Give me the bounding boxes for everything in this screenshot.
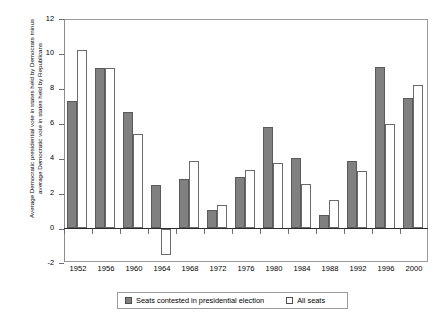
x-tick-mark xyxy=(288,229,289,234)
bar-1984-all-seats xyxy=(301,184,311,229)
y-tick-mark xyxy=(59,89,64,90)
x-tick-mark xyxy=(64,229,65,234)
y-tick-label: 12 xyxy=(28,15,54,23)
x-tick-mark xyxy=(92,229,93,234)
y-tick-label: 8 xyxy=(28,84,54,92)
bar-1980-all-seats xyxy=(273,163,283,228)
bar-1956-all-seats xyxy=(105,68,115,229)
x-tick-mark xyxy=(176,229,177,234)
legend-label-contested: Seats contested in presidential election xyxy=(136,296,264,305)
bar-1976-contested xyxy=(235,177,245,229)
y-tick-label: 4 xyxy=(28,154,54,162)
bar-2000-all-seats xyxy=(413,85,423,228)
x-tick-mark xyxy=(204,229,205,234)
legend-item-contested: Seats contested in presidential election xyxy=(125,296,264,305)
bar-1972-contested xyxy=(207,210,217,228)
bar-1952-all-seats xyxy=(77,50,87,228)
y-tick-mark xyxy=(59,124,64,125)
x-tick-mark xyxy=(120,229,121,234)
bar-1960-contested xyxy=(123,112,133,229)
y-tick-label: 6 xyxy=(28,119,54,127)
bar-1996-contested xyxy=(375,67,385,228)
y-tick-mark xyxy=(59,19,64,20)
y-tick-mark xyxy=(59,54,64,55)
bar-1996-all-seats xyxy=(385,124,395,229)
bar-1972-all-seats xyxy=(217,205,227,229)
x-tick-mark xyxy=(316,229,317,234)
x-tick-label: 2000 xyxy=(394,264,434,273)
bar-1992-contested xyxy=(347,161,357,228)
zero-baseline xyxy=(64,228,428,229)
legend-item-all-seats: All seats xyxy=(286,296,325,305)
y-tick-label: 10 xyxy=(28,49,54,57)
x-tick-mark xyxy=(260,229,261,234)
y-tick-label: 0 xyxy=(28,224,54,232)
bar-1956-contested xyxy=(95,68,105,229)
y-tick-mark xyxy=(59,159,64,160)
bar-1968-all-seats xyxy=(189,161,199,228)
x-tick-mark xyxy=(148,229,149,234)
bar-1968-contested xyxy=(179,179,189,229)
bar-1964-contested xyxy=(151,185,161,229)
legend-swatch-contested-icon xyxy=(125,297,132,304)
legend-swatch-all-seats-icon xyxy=(286,297,293,304)
x-tick-mark xyxy=(400,229,401,234)
x-tick-mark xyxy=(344,229,345,234)
x-tick-mark xyxy=(372,229,373,234)
bar-1976-all-seats xyxy=(245,170,255,228)
bar-1964-all-seats xyxy=(161,229,171,255)
bar-1960-all-seats xyxy=(133,134,143,228)
bar-2000-contested xyxy=(403,98,413,229)
chart-legend: Seats contested in presidential election… xyxy=(117,292,348,309)
y-axis-line xyxy=(64,19,65,262)
y-tick-label: -2 xyxy=(28,259,54,267)
bar-1980-contested xyxy=(263,127,273,228)
bar-1988-contested xyxy=(319,215,329,228)
y-tick-label: 2 xyxy=(28,189,54,197)
y-tick-mark xyxy=(59,194,64,195)
bar-1988-all-seats xyxy=(329,200,339,229)
bar-1952-contested xyxy=(67,101,77,228)
bar-chart: Average Democratic presidential vote in … xyxy=(0,0,446,323)
x-tick-mark xyxy=(232,229,233,234)
legend-label-all-seats: All seats xyxy=(297,296,325,305)
bar-1984-contested xyxy=(291,158,301,229)
bar-1992-all-seats xyxy=(357,171,367,229)
